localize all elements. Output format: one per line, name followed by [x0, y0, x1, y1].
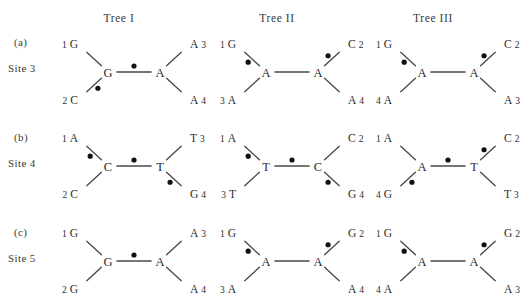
mutation-dot-upper-right — [481, 147, 486, 152]
internal-node-right: T — [470, 160, 478, 174]
branch-lower-right — [167, 78, 182, 92]
tip-label: G4 — [190, 188, 206, 200]
internal-node-right: A — [313, 255, 322, 269]
tree-diagram-a2: AA1G3AC2A4 — [220, 26, 370, 112]
internal-node-left: C — [104, 160, 112, 174]
internal-node-left: A — [261, 66, 270, 80]
tip-label: C2 — [348, 38, 364, 50]
tip-label: 3A — [220, 94, 237, 106]
internal-node-left: A — [261, 255, 270, 269]
branch-lower-right — [167, 267, 182, 281]
tip-label: A4 — [190, 94, 206, 106]
tree-svg: CT1A2CT3G4 — [62, 120, 212, 206]
mutation-dot-internal — [445, 157, 450, 162]
mutation-dot-lower-right — [325, 180, 330, 185]
branch-lower-right — [325, 267, 340, 281]
mutation-dot-upper-right — [325, 53, 330, 58]
internal-node-right: A — [469, 66, 478, 80]
tree-svg: AA1G4AG2A3 — [376, 215, 525, 298]
mutation-dot-upper-left — [246, 154, 251, 159]
tree-diagram-b3: AT1A4GC2T3 — [376, 120, 525, 206]
branch-lower-left — [245, 78, 260, 92]
internal-node-right: C — [314, 160, 322, 174]
internal-node-right: A — [155, 255, 164, 269]
branch-lower-left — [87, 267, 102, 281]
branch-upper-right — [167, 146, 182, 160]
tip-label: 1A — [220, 132, 237, 144]
tree-diagram-b1: CT1A2CT3G4 — [62, 120, 212, 206]
tip-label: C2 — [504, 132, 520, 144]
branch-lower-left — [401, 267, 416, 281]
mutation-dot-lower-right — [167, 180, 172, 185]
tip-label: A3 — [504, 94, 520, 106]
mutation-dot-upper-left — [88, 154, 93, 159]
tree-svg: TC1A3TC2G4 — [220, 120, 370, 206]
internal-node-left: G — [103, 255, 112, 269]
mutation-dot-upper-right — [481, 53, 486, 58]
tree-diagram-c3: AA1G4AG2A3 — [376, 215, 525, 298]
tip-label: A3 — [190, 227, 206, 239]
mutation-dot-internal — [131, 252, 136, 257]
mutation-dot-upper-left — [402, 249, 407, 254]
internal-node-right: A — [469, 255, 478, 269]
branch-lower-right — [481, 78, 496, 92]
internal-node-left: G — [103, 66, 112, 80]
internal-node-left: T — [262, 160, 270, 174]
mutation-dot-upper-right — [325, 242, 330, 247]
mutation-dot-lower-left — [95, 86, 100, 91]
mutation-dot-upper-left — [402, 60, 407, 65]
tip-label: 2C — [63, 94, 79, 106]
tip-label: T3 — [504, 188, 519, 200]
branch-upper-left — [87, 241, 102, 255]
tip-label: G2 — [348, 227, 364, 239]
branch-lower-left — [401, 78, 416, 92]
tip-label: 1G — [220, 38, 236, 50]
tip-label: G4 — [348, 188, 364, 200]
tree-column-header-2: Tree II — [259, 12, 294, 24]
tree-svg: AA1G4AC2A3 — [376, 26, 525, 112]
tree-column-header-3: Tree III — [413, 12, 453, 24]
tip-label: A4 — [348, 94, 364, 106]
mutation-dot-upper-left — [246, 60, 251, 65]
tip-label: 1G — [376, 227, 392, 239]
tree-diagram-c1: GA1G2GA3A4 — [62, 215, 212, 298]
panel-label-b: (b) — [14, 131, 28, 143]
tip-label: 4G — [376, 188, 392, 200]
mutation-dot-lower-left — [409, 180, 414, 185]
tip-label: A3 — [190, 38, 206, 50]
internal-node-left: A — [417, 66, 426, 80]
branch-lower-left — [245, 172, 260, 186]
branch-upper-right — [167, 52, 182, 66]
tip-label: 1A — [62, 132, 79, 144]
tree-diagram-b2: TC1A3TC2G4 — [220, 120, 370, 206]
tip-label: A3 — [504, 283, 520, 295]
cropped-caption-strip — [0, 294, 506, 298]
tip-label: T3 — [190, 132, 205, 144]
panel-label-c: (c) — [14, 226, 27, 238]
mutation-dot-upper-left — [246, 249, 251, 254]
tree-svg: GA1G2CA3A4 — [62, 26, 212, 112]
site-label-b: Site 4 — [8, 157, 36, 169]
branch-upper-left — [87, 52, 102, 66]
site-label-c: Site 5 — [8, 252, 36, 264]
tip-label: 1A — [376, 132, 393, 144]
branch-lower-right — [325, 78, 340, 92]
mutation-dot-upper-right — [481, 242, 486, 247]
mutation-dot-internal — [131, 63, 136, 68]
tree-svg: AA1G3AG2A4 — [220, 215, 370, 298]
tip-label: 4A — [376, 94, 393, 106]
tip-label: C2 — [504, 38, 520, 50]
internal-node-right: A — [155, 66, 164, 80]
mutation-dot-internal — [131, 157, 136, 162]
tip-label: G2 — [504, 227, 520, 239]
tree-svg: AT1A4GC2T3 — [376, 120, 525, 206]
tip-label: 3T — [221, 188, 236, 200]
tree-column-header-1: Tree I — [104, 12, 135, 24]
tip-label: C2 — [348, 132, 364, 144]
tree-svg: GA1G2GA3A4 — [62, 215, 212, 298]
tree-diagram-a3: AA1G4AC2A3 — [376, 26, 525, 112]
tree-svg: AA1G3AC2A4 — [220, 26, 370, 112]
tree-diagram-a1: GA1G2CA3A4 — [62, 26, 212, 112]
panel-label-a: (a) — [14, 36, 27, 48]
